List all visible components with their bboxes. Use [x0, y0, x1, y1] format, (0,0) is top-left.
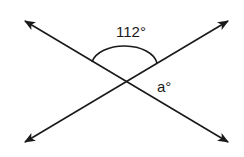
angle-arc-112: [92, 46, 157, 63]
diagram-canvas: 112° a°: [0, 0, 244, 157]
unknown-angle-label: a°: [157, 78, 171, 95]
known-angle-label: 112°: [116, 23, 146, 40]
